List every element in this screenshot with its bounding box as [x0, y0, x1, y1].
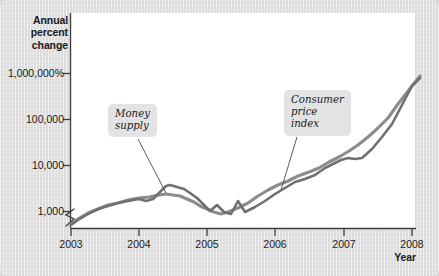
y-tick-label-10000: 10,000 [0, 159, 64, 171]
chart-figure: Annual percent change Year 1,000,000% 10… [0, 0, 439, 276]
y-axis-title-line-1: Annual [20, 14, 68, 26]
x-tick-label-2006: 2006 [245, 238, 305, 250]
y-tick-label-100000: 100,000 [0, 113, 64, 125]
x-tick-label-2005: 2005 [177, 238, 237, 250]
x-axis-ticks [71, 229, 412, 237]
annotation-cpi-line-3: index [291, 118, 344, 130]
x-tick-label-2003: 2003 [41, 238, 101, 250]
y-axis-title: Annual percent change [20, 14, 68, 51]
annotation-money-supply-line-1: Money [115, 108, 150, 120]
y-tick-label-1000: 1,000 [0, 205, 64, 217]
annotation-money-supply: Money supply [108, 104, 157, 137]
data-series-group [71, 76, 420, 225]
y-axis-title-line-2: percent [20, 26, 68, 38]
annotation-cpi-line-2: price [291, 106, 344, 118]
x-axis-title: Year [370, 251, 416, 263]
x-tick-label-2007: 2007 [314, 238, 374, 250]
y-axis-ticks [63, 74, 71, 212]
callout-leader-lines [138, 137, 297, 193]
annotation-money-supply-line-2: supply [115, 120, 150, 132]
leader-line-money-supply [138, 139, 166, 193]
x-tick-label-2008: 2008 [382, 238, 439, 250]
annotation-consumer-price-index: Consumer price index [284, 90, 351, 136]
x-tick-label-2004: 2004 [109, 238, 169, 250]
y-axis-title-line-3: change [20, 39, 68, 51]
annotation-cpi-line-1: Consumer [291, 94, 344, 106]
y-tick-label-1000000: 1,000,000% [0, 67, 64, 79]
